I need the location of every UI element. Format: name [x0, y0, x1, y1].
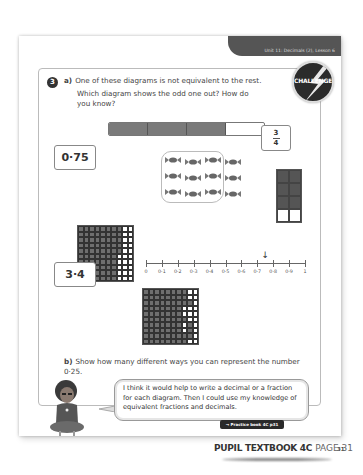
part-a-label: a) [64, 76, 72, 85]
lesson-header: Unit 11: Decimals (2), Lesson 6 [228, 36, 341, 56]
number-line-label: 0·8 [269, 269, 277, 274]
part-a-line1: One of these diagrams is not equivalent … [75, 76, 261, 85]
grid-cell [277, 196, 289, 209]
arrow-down-icon: ↓ [261, 250, 269, 260]
book-footer: PUPIL TEXTBOOK 4CPAGE 31 [214, 443, 353, 453]
part-b-label: b) [64, 357, 72, 366]
bar-model [108, 122, 265, 136]
book-page: PAGE 31 [315, 443, 353, 453]
bar-segment [148, 123, 187, 135]
rectangle-grid-diagram [276, 169, 302, 223]
sweets-diagram [161, 151, 251, 206]
sweet-icon [185, 175, 201, 181]
number-line-tick [178, 260, 179, 267]
question-part-a: a)One of these diagrams is not equivalen… [64, 76, 264, 112]
bar-segment [187, 123, 226, 135]
grid-cell [193, 339, 199, 345]
book-title: PUPIL TEXTBOOK 4C [214, 443, 312, 453]
grid-cell [277, 209, 289, 222]
sweet-icon [225, 175, 241, 181]
number-line-label: 0·9 [285, 269, 293, 274]
sweet-icon [165, 157, 181, 163]
speech-text: I think it would help to write a decimal… [123, 384, 297, 411]
hundred-square-b [142, 288, 199, 345]
speech-bubble: I think it would help to write a decimal… [114, 379, 309, 421]
pupil-character-illustration [49, 377, 85, 437]
fraction-box-3-4: 3 4 [261, 125, 291, 151]
grid-cell [277, 183, 289, 196]
sweet-icon [185, 191, 201, 197]
sweet-icon [165, 189, 181, 195]
number-line-label: 0·4 [206, 269, 214, 274]
number-line-label: 0·6 [238, 269, 246, 274]
question-card: 3 a)One of these diagrams is not equival… [38, 68, 321, 406]
sweet-icon [205, 173, 221, 179]
sweet-icon [205, 157, 221, 163]
decimal-box-3-4: 3·4 [54, 262, 96, 287]
number-line-tick [241, 260, 242, 267]
sweet-icon [185, 159, 201, 165]
number-line-tick [257, 260, 258, 267]
number-line-label: 1 [303, 269, 306, 274]
number-line-label: 0·7 [253, 269, 261, 274]
fraction-denominator: 4 [262, 140, 290, 147]
number-line-label: 0·1 [158, 269, 166, 274]
practice-book-link[interactable]: → Practice book 4C p31 [220, 420, 284, 429]
number-line-tick [289, 260, 290, 267]
footer-shadow [222, 458, 332, 461]
number-line-label: 0·3 [190, 269, 198, 274]
number-line-tick [194, 260, 195, 267]
sweet-icon [225, 159, 241, 165]
number-line: 00·10·20·30·40·50·60·70·80·91↓ [143, 253, 308, 283]
decimal-box-0-75: 0·75 [54, 145, 96, 170]
bar-segment [226, 123, 264, 135]
challenge-badge: CHALLENGE [292, 61, 334, 103]
lesson-title: Unit 11: Decimals (2), Lesson 6 [265, 48, 335, 53]
number-line-label: 0·5 [222, 269, 230, 274]
grid-cell [289, 183, 301, 196]
sweet-icon [225, 191, 241, 197]
question-part-b: b)Show how many different ways you can r… [64, 357, 304, 377]
number-line-tick [162, 260, 163, 267]
sweet-icon [205, 189, 221, 195]
number-line-label: 0 [144, 269, 147, 274]
grid-cell [289, 170, 301, 183]
number-line-tick [146, 260, 147, 267]
textbook-page: Unit 11: Decimals (2), Lesson 6 3 a)One … [19, 36, 341, 436]
number-line-tick [273, 260, 274, 267]
bar-segment [109, 123, 148, 135]
grid-cell [277, 170, 289, 183]
number-line-label: 0·2 [174, 269, 182, 274]
question-number-badge: 3 [47, 77, 58, 88]
part-a-line2: Which diagram shows the odd one out? How… [64, 89, 264, 109]
grid-cell [289, 196, 301, 209]
number-line-tick [305, 260, 306, 267]
part-b-text: Show how many different ways you can rep… [64, 357, 300, 376]
sweet-icon [165, 173, 181, 179]
number-line-tick [226, 260, 227, 267]
grid-cell [128, 276, 134, 282]
challenge-label: CHALLENGE [294, 77, 332, 84]
number-line-tick [210, 260, 211, 267]
fraction-numerator: 3 [262, 130, 290, 137]
grid-cell [289, 209, 301, 222]
